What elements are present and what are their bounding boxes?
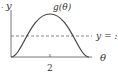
leading-mark: . bbox=[1, 1, 4, 10]
curve-label: g(θ) bbox=[53, 2, 72, 12]
x-axis-label: θ bbox=[100, 52, 106, 63]
y-axis-label: y bbox=[5, 0, 12, 11]
dashed-line-label: y = : bbox=[95, 31, 117, 41]
x-tick-label: 2 bbox=[47, 63, 53, 73]
graph: . y θ 2 y = : g(θ) bbox=[0, 0, 118, 78]
curve-g-theta bbox=[11, 14, 89, 57]
